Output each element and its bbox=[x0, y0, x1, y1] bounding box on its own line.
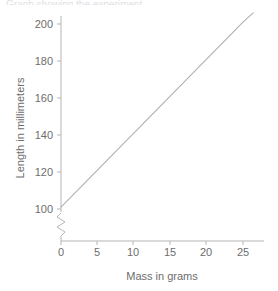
chart-figure: Graph showing the experiment bbox=[0, 0, 278, 291]
x-ticklabel-5: 25 bbox=[237, 246, 249, 258]
y-axis-title: Length in millimeters bbox=[14, 77, 26, 178]
x-ticklabel-1: 5 bbox=[94, 246, 100, 258]
y-ticklabel-2: 140 bbox=[35, 129, 53, 141]
x-ticklabel-2: 10 bbox=[127, 246, 139, 258]
y-ticklabel-5: 200 bbox=[35, 18, 53, 30]
y-ticklabel-0: 100 bbox=[35, 203, 53, 215]
y-ticklabel-3: 160 bbox=[35, 92, 53, 104]
cropped-caption-text: Graph showing the experiment bbox=[6, 0, 186, 5]
y-ticklabel-1: 120 bbox=[35, 166, 53, 178]
x-ticklabel-4: 20 bbox=[200, 246, 212, 258]
x-ticklabel-0: 0 bbox=[58, 246, 64, 258]
x-axis-title: Mass in grams bbox=[126, 270, 198, 282]
x-ticklabel-3: 15 bbox=[164, 246, 176, 258]
y-ticklabel-4: 180 bbox=[35, 55, 53, 67]
line-chart-svg: 200 180 160 140 120 100 0 5 10 15 20 25 … bbox=[0, 0, 278, 291]
